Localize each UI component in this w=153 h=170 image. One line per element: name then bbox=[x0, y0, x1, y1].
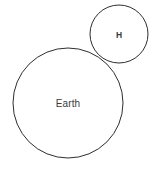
size-comparison-diagram: H Earth bbox=[0, 0, 153, 170]
small-circle-label: H bbox=[116, 30, 122, 40]
earth-circle-label: Earth bbox=[56, 98, 81, 109]
diagram-canvas: H Earth bbox=[0, 0, 153, 170]
